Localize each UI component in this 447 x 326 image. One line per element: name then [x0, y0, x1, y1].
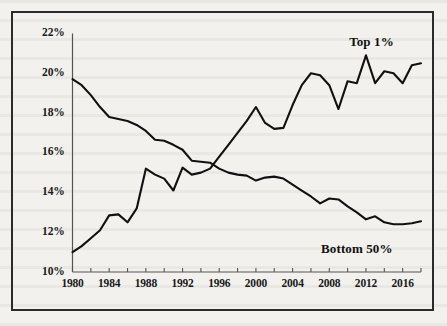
chart-axes	[73, 34, 422, 273]
series-line-bottom-50	[73, 79, 422, 224]
y-axis-tick-label: 12%	[25, 225, 65, 237]
y-axis-tick-label: 18%	[25, 106, 65, 118]
series-label-top-1: Top 1%	[349, 34, 394, 50]
series-label-bottom-50: Bottom 50%	[321, 241, 392, 257]
y-axis-tick-label: 16%	[25, 145, 65, 157]
y-axis-tick-label: 20%	[25, 66, 65, 78]
chart-page: 10%12%14%16%18%20%22% 198019841988199219…	[0, 0, 447, 326]
y-axis-tick-label: 10%	[25, 265, 65, 277]
y-axis-tick-label: 22%	[25, 26, 65, 38]
x-axis-tick-label: 2016	[381, 277, 425, 289]
chart-series	[73, 55, 422, 252]
y-axis-tick-label: 14%	[25, 185, 65, 197]
series-line-top-1	[73, 55, 422, 252]
